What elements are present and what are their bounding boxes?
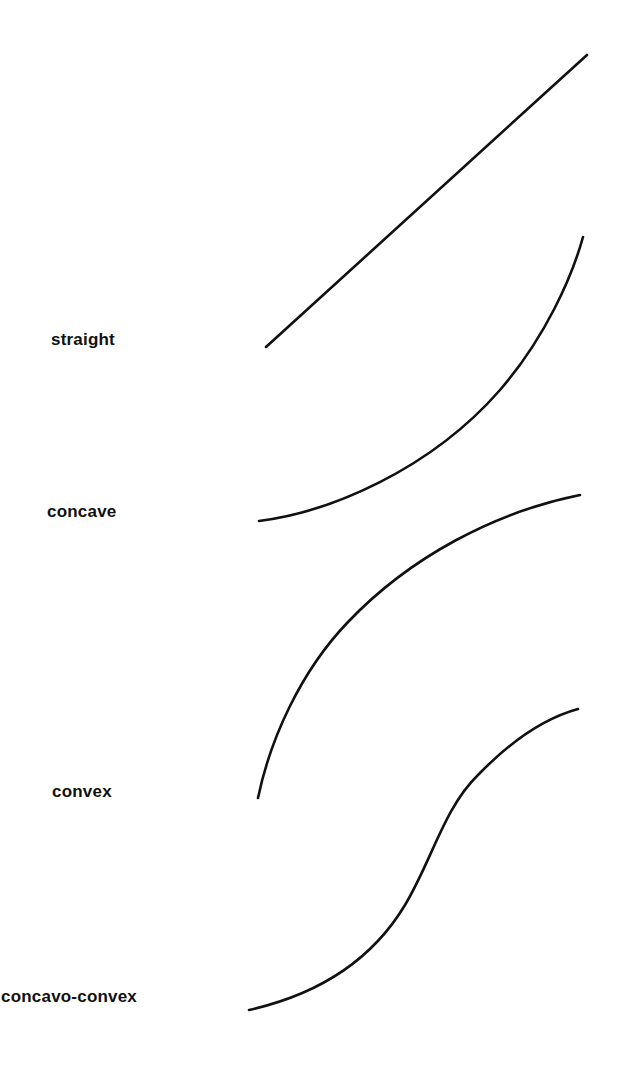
concavo-convex-curve [249, 709, 578, 1010]
curve-label-straight: straight [51, 331, 115, 348]
straight-line-curve [266, 55, 587, 347]
curve-label-concavo-convex: concavo-convex [1, 988, 137, 1005]
curve-shapes-figure: straight concave convex concavo-convex [0, 0, 623, 1070]
curve-label-convex: convex [52, 783, 112, 800]
curve-label-concave: concave [47, 503, 116, 520]
convex-curve [258, 495, 580, 798]
concave-curve [259, 237, 583, 521]
curves-illustration [0, 0, 623, 1070]
